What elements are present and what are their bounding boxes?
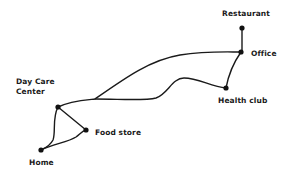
label-health-club: Health club (218, 96, 267, 106)
edge-daycare-food-store (58, 107, 86, 130)
edge-food-store-home (41, 130, 86, 150)
node-food-store (83, 127, 88, 132)
label-restaurant: Restaurant (222, 9, 270, 19)
label-food-store: Food store (95, 128, 141, 138)
label-office: Office (251, 49, 277, 59)
node-health-club (223, 85, 228, 90)
node-day-care (55, 104, 60, 109)
node-home (38, 147, 43, 152)
node-restaurant (239, 25, 244, 30)
edge-office-health-club (226, 52, 241, 88)
node-office (238, 49, 243, 54)
label-day-care-center: Day Care Center (16, 77, 55, 97)
edge-daycare-home (41, 107, 58, 150)
edge-daycare-health-club (95, 78, 226, 100)
label-home: Home (29, 158, 54, 168)
